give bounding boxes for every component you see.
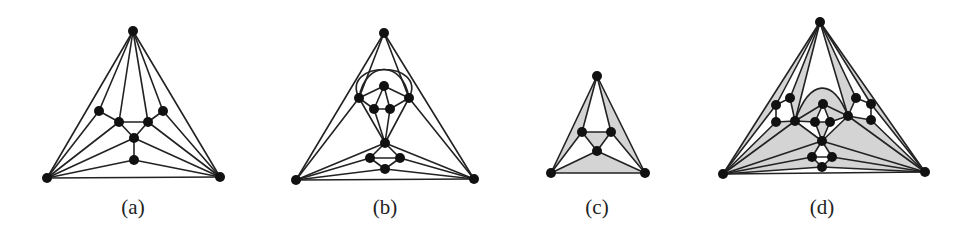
graph-edge bbox=[790, 22, 820, 98]
graph-vertex bbox=[818, 99, 828, 109]
graph-vertex bbox=[577, 127, 587, 137]
graph-vertex bbox=[771, 100, 781, 110]
graph-vertex bbox=[807, 152, 817, 162]
graph-vertex bbox=[469, 174, 479, 184]
panel-label-c: (c) bbox=[585, 195, 608, 219]
graph-vertex bbox=[380, 138, 390, 148]
graph-vertex bbox=[843, 111, 853, 121]
graph-vertex bbox=[404, 93, 414, 103]
graph-edge bbox=[133, 31, 220, 177]
graph-vertex bbox=[94, 106, 104, 116]
graph-vertex bbox=[817, 136, 827, 146]
graph-vertex bbox=[129, 133, 139, 143]
graph-vertex bbox=[592, 146, 602, 156]
graph-vertex bbox=[215, 172, 225, 182]
graph-panel-a bbox=[42, 26, 225, 183]
graph-vertex bbox=[851, 93, 861, 103]
figure-canvas: (a) (b) (c) (d) bbox=[0, 0, 966, 235]
graph-vertex bbox=[825, 117, 835, 127]
graph-vertex bbox=[42, 173, 52, 183]
graph-edge bbox=[99, 31, 133, 111]
graph-panel-c bbox=[546, 71, 650, 178]
graph-vertex bbox=[815, 17, 825, 27]
graph-vertex bbox=[606, 127, 616, 137]
graph-edge bbox=[133, 31, 163, 111]
graph-vertex bbox=[790, 116, 800, 126]
graph-vertex bbox=[546, 168, 556, 178]
graph-panel-b bbox=[291, 28, 479, 185]
graph-vertex bbox=[771, 117, 781, 127]
graph-vertex bbox=[827, 152, 837, 162]
graph-vertex bbox=[379, 28, 389, 38]
graph-edge bbox=[409, 98, 474, 179]
panel-label-b: (b) bbox=[373, 195, 398, 219]
graph-vertex bbox=[592, 71, 602, 81]
graph-vertex bbox=[718, 169, 728, 179]
graph-panel-d bbox=[718, 17, 930, 179]
graph-vertex bbox=[866, 99, 876, 109]
graph-vertex bbox=[817, 162, 827, 172]
graph-vertex bbox=[385, 104, 395, 114]
panel-label-d: (d) bbox=[810, 195, 835, 219]
graph-vertex bbox=[158, 106, 168, 116]
graph-edge bbox=[47, 160, 134, 178]
graph-vertex bbox=[380, 164, 390, 174]
graph-vertex bbox=[785, 93, 795, 103]
graph-vertex bbox=[379, 81, 389, 91]
graph-vertex bbox=[395, 153, 405, 163]
graph-vertex bbox=[810, 117, 820, 127]
graph-vertex bbox=[354, 93, 364, 103]
graph-vertex bbox=[128, 26, 138, 36]
graph-vertex bbox=[369, 104, 379, 114]
graph-edge bbox=[47, 31, 133, 178]
graph-edge bbox=[47, 177, 220, 178]
graph-edge bbox=[296, 179, 474, 180]
graph-vertex bbox=[291, 175, 301, 185]
graph-edge bbox=[820, 22, 856, 98]
graph-vertex bbox=[114, 117, 124, 127]
graph-vertex bbox=[143, 117, 153, 127]
graph-vertex bbox=[920, 167, 930, 177]
panel-label-a: (a) bbox=[121, 195, 144, 219]
graph-vertex bbox=[129, 155, 139, 165]
graph-edge bbox=[119, 31, 133, 122]
graph-vertex bbox=[640, 168, 650, 178]
graph-vertex bbox=[866, 115, 876, 125]
graph-vertex bbox=[365, 153, 375, 163]
